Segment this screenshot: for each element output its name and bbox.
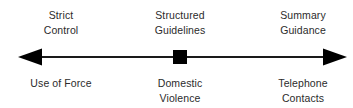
center-square-marker-icon bbox=[173, 50, 187, 64]
left-arrowhead-icon bbox=[18, 49, 42, 66]
right-bottom-label: Telephone Contacts bbox=[278, 76, 327, 105]
center-bottom-label-line1: Domestic bbox=[158, 76, 203, 91]
center-bottom-label-line2: Violence bbox=[158, 91, 203, 106]
continuum-diagram: Strict Control Structured Guidelines Sum… bbox=[0, 0, 353, 108]
left-bottom-label-line1: Use of Force bbox=[30, 76, 91, 91]
right-arrowhead-icon bbox=[323, 49, 347, 66]
center-bottom-label: Domestic Violence bbox=[158, 76, 203, 105]
right-bottom-label-line2: Contacts bbox=[278, 91, 327, 106]
left-bottom-label: Use of Force bbox=[30, 76, 91, 91]
right-bottom-label-line1: Telephone bbox=[278, 76, 327, 91]
